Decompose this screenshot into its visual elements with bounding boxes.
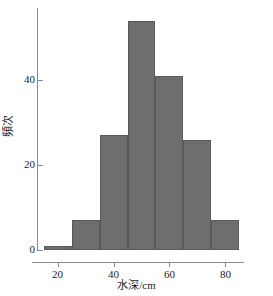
y-axis-tick-label: 20 xyxy=(24,159,35,170)
histogram-bar xyxy=(128,21,156,250)
histogram-bar xyxy=(211,220,239,250)
x-axis-tick xyxy=(58,263,59,267)
bars-layer xyxy=(38,8,245,250)
caption-strip xyxy=(0,291,273,296)
y-axis-tick xyxy=(38,165,43,166)
x-axis-line xyxy=(32,262,244,263)
histogram-bar xyxy=(72,220,100,250)
histogram-bar xyxy=(44,246,72,250)
x-axis-tick xyxy=(225,263,226,267)
y-axis-tick-label: 0 xyxy=(30,244,36,255)
y-axis-title: 頻次 xyxy=(2,106,14,146)
x-axis-tick xyxy=(169,263,170,267)
histogram-bar xyxy=(155,76,183,250)
y-axis-tick xyxy=(38,80,43,81)
histogram-figure: 02040 20406080 頻次 水深/cm xyxy=(0,0,273,296)
y-axis-tick-label: 40 xyxy=(24,74,35,85)
x-axis-tick xyxy=(114,263,115,267)
histogram-bar xyxy=(100,135,128,250)
y-axis-tick xyxy=(38,250,43,251)
x-axis-title: 水深/cm xyxy=(0,279,273,291)
histogram-bar xyxy=(183,140,211,250)
